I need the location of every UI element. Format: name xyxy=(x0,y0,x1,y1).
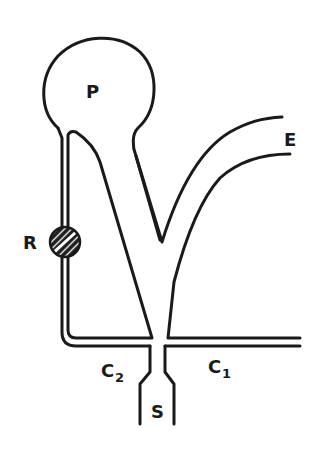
label-c2-subscript: 2 xyxy=(115,370,124,385)
label-e: E xyxy=(284,129,296,150)
label-c2: C xyxy=(101,360,114,381)
v-channel-outer xyxy=(136,117,282,242)
label-r: R xyxy=(23,232,37,253)
label-p: P xyxy=(86,81,99,102)
label-c1: C xyxy=(208,356,221,377)
label-c1-subscript: 1 xyxy=(222,366,231,381)
stem-right xyxy=(165,346,174,424)
left-tube-outer-lower xyxy=(62,256,150,346)
flow-diagram: P E R C 2 C 1 S xyxy=(0,0,318,455)
label-s: S xyxy=(151,401,164,422)
stem-left xyxy=(140,346,150,424)
left-tube-outer xyxy=(58,128,62,228)
